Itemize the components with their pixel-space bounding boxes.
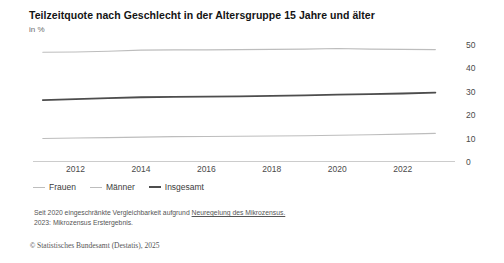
y-tick-label: 20 [466,110,475,120]
x-tick-label: 2016 [197,164,216,174]
legend-label: Insgesamt [165,182,204,192]
y-tick-label: 50 [466,40,475,50]
x-tick-label: 2018 [262,164,281,174]
series-line-frauen [43,48,436,52]
footnote-1-text: Seit 2020 eingeschränkte Vergleichbarkei… [34,209,192,216]
x-tick-label: 2012 [66,164,85,174]
chart-subtitle: in % [29,25,45,34]
series-line-insgesamt [43,93,436,101]
legend-label: Männer [106,182,135,192]
y-axis-labels: 01020304050 [466,40,496,162]
plot-area [33,40,455,162]
footnote-line-2: 2023: Mikrozensus Erstergebnis. [34,218,434,228]
x-tick-label: 2014 [131,164,150,174]
legend-item-männer[interactable]: Männer [90,182,135,192]
x-tick-label: 2022 [393,164,412,174]
legend-item-frauen[interactable]: Frauen [33,182,76,192]
source-text: Statistisches Bundesamt (Destatis), 2025 [37,241,160,250]
copyright-icon: © [30,242,35,249]
chart-title: Teilzeitquote nach Geschlecht in der Alt… [29,9,375,21]
source-line: © Statistisches Bundesamt (Destatis), 20… [30,241,160,250]
footnote-line-1: Seit 2020 eingeschränkte Vergleichbarkei… [34,208,434,218]
line-chart-svg [33,40,455,162]
x-tick-label: 2020 [328,164,347,174]
footnote-1-link[interactable]: Neuregelung des Mikrozensus. [192,209,286,216]
legend-label: Frauen [49,182,76,192]
legend-line-swatch [33,187,45,188]
chart-legend: FrauenMännerInsgesamt [33,182,204,192]
legend-line-swatch [90,187,102,188]
footnotes: Seit 2020 eingeschränkte Vergleichbarkei… [34,208,434,228]
legend-item-insgesamt[interactable]: Insgesamt [149,182,204,192]
chart-figure: Teilzeitquote nach Geschlecht in der Alt… [0,0,504,263]
x-axis-labels: 201220142016201820202022 [33,164,455,178]
y-tick-label: 0 [466,157,471,167]
y-tick-label: 30 [466,87,475,97]
y-tick-label: 40 [466,63,475,73]
legend-line-swatch [149,186,161,188]
series-line-männer [43,133,436,138]
y-tick-label: 10 [466,134,475,144]
